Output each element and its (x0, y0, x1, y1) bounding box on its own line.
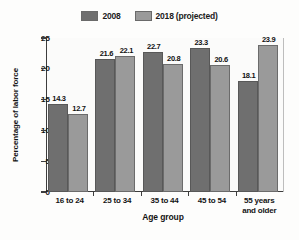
legend-label-2018: 2018 (projected) (156, 11, 218, 21)
bar-2008 (143, 52, 163, 192)
bar-2018-projected- (163, 64, 183, 192)
bar-value-label: 22.1 (113, 46, 139, 55)
bar-2018-projected- (258, 45, 278, 192)
bar-value-label: 14.3 (46, 94, 72, 103)
bar-2018-projected- (68, 114, 88, 192)
plot-right-border (283, 38, 284, 192)
bar-value-label: 12.7 (66, 104, 92, 113)
legend-entry-2008: 2008 (81, 11, 120, 21)
legend-entry-2018: 2018 (projected) (135, 11, 218, 21)
bar-group: 14.312.7 (46, 38, 93, 192)
bar-value-label: 20.6 (208, 55, 234, 64)
x-axis-title: Age group (40, 212, 286, 222)
x-category-line: 55 years (231, 196, 287, 206)
bar-2008 (238, 81, 258, 192)
bar-2018-projected- (210, 65, 230, 192)
legend-label-2008: 2008 (102, 11, 120, 21)
bar-2018-projected- (115, 56, 135, 192)
bar-group: 23.320.6 (188, 38, 235, 192)
y-axis-title: Percentage of labor force (8, 38, 21, 192)
bar-value-label: 20.8 (161, 54, 187, 63)
bar-group: 21.622.1 (93, 38, 140, 192)
bar-chart-screenshot: 2008 2018 (projected) Percentage of labo… (0, 0, 299, 240)
bar-2008 (95, 59, 115, 192)
chart-legend: 2008 2018 (projected) (0, 11, 299, 21)
legend-swatch-2018 (135, 11, 152, 21)
bar-value-label: 23.3 (188, 38, 214, 47)
bar-group: 22.720.8 (141, 38, 188, 192)
bar-value-label: 23.9 (256, 35, 282, 44)
bar-2008 (190, 48, 210, 192)
legend-swatch-2008 (81, 11, 98, 21)
bar-group: 18.123.9 (236, 38, 283, 192)
y-axis-title-text: Percentage of labor force (10, 68, 19, 162)
bars-layer: 14.312.721.622.122.720.823.320.618.123.9 (46, 38, 283, 192)
bar-2008 (48, 104, 68, 192)
bar-value-label: 22.7 (141, 42, 167, 51)
